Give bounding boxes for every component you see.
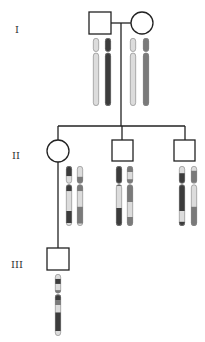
chromosome-III-1: [55, 274, 61, 336]
chromosome-band: [77, 191, 83, 207]
chromosome-band: [179, 211, 185, 222]
male-individual-II-2: [112, 140, 133, 161]
chromosome-band: [116, 186, 122, 209]
chromosome-I-1: [93, 38, 99, 106]
chromosomes: [55, 38, 197, 336]
chromosome-band: [143, 38, 149, 106]
chromosome-band: [55, 284, 61, 291]
chromosome-II-3: [191, 166, 197, 226]
chromosome-II-1: [77, 166, 83, 226]
chromosome-band: [55, 312, 61, 331]
female-individual-I-2: [131, 12, 153, 34]
male-individual-I-1: [89, 12, 111, 34]
chromosome-band: [66, 191, 72, 211]
chromosome-band: [130, 38, 136, 106]
chromosome-I-1: [105, 38, 111, 106]
chromosome-band: [77, 207, 83, 224]
chromosome-band: [77, 177, 83, 192]
chromosome-II-2: [116, 166, 122, 226]
chromosome-I-2: [130, 38, 136, 106]
chromosome-band: [179, 173, 185, 211]
chromosome-band: [55, 305, 61, 313]
chromosome-band: [116, 208, 122, 226]
chromosome-band: [191, 207, 197, 227]
chromosome-band: [66, 184, 72, 192]
chromosome-II-2: [127, 166, 133, 226]
male-individual-II-3: [174, 140, 195, 161]
chromosome-band: [191, 183, 197, 207]
chromosome-band: [127, 202, 133, 217]
chromosome-band: [191, 171, 197, 183]
chromosome-band: [55, 279, 61, 284]
chromosome-band: [55, 300, 61, 305]
chromosome-band: [105, 38, 111, 106]
male-individual-III-1: [47, 248, 69, 270]
chromosome-band: [93, 38, 99, 106]
chromosome-I-2: [143, 38, 149, 106]
chromosome-II-3: [179, 166, 185, 226]
pedigree-diagram: [0, 0, 205, 342]
chromosome-band: [127, 172, 133, 180]
chromosome-band: [66, 211, 72, 223]
chromosome-II-1: [66, 166, 72, 226]
female-individual-II-1: [47, 140, 69, 162]
